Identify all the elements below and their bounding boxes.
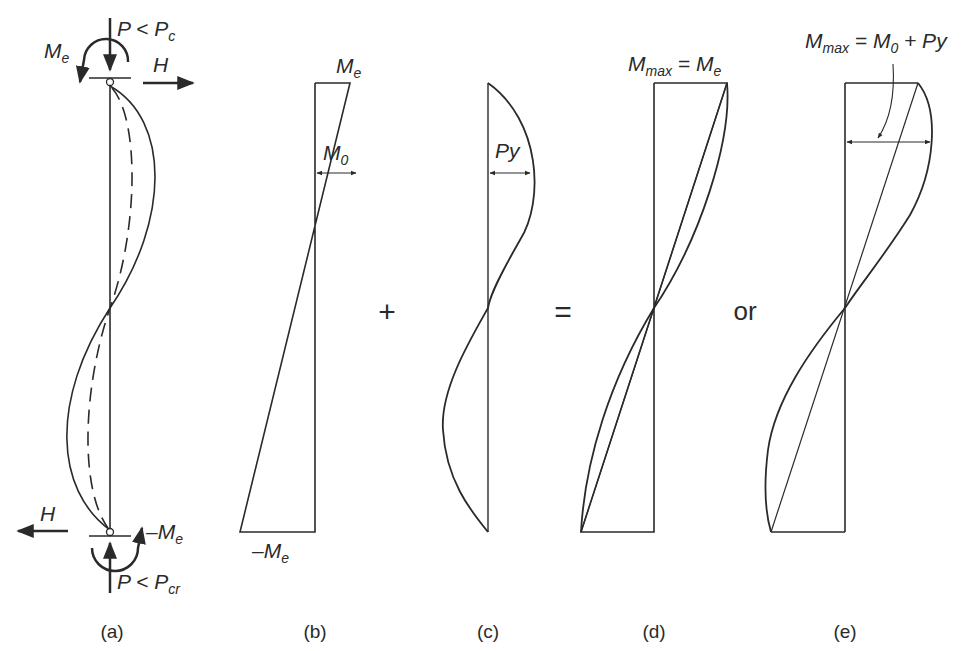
panel-c-secondary-moment: Py (c) <box>443 83 535 642</box>
panel-a-column: P < Pc Me H H –Me P < Pcr (a) <box>18 17 193 642</box>
bottom-moment-label: –Me <box>145 520 183 547</box>
plus-operator: + <box>378 295 396 328</box>
or-operator: or <box>733 296 756 326</box>
top-horizontal-label: H <box>153 53 169 76</box>
bottom-horizontal-label: H <box>40 502 56 525</box>
bottom-load-label: P < Pcr <box>117 570 181 597</box>
caption-a: (a) <box>100 621 123 642</box>
equals-operator: = <box>554 295 572 328</box>
top-load-label: P < Pc <box>117 17 175 44</box>
panel-b-primary-moment: Me M0 –Me (b) <box>240 54 362 642</box>
top-pin <box>107 79 114 86</box>
py-label: Py <box>495 139 521 162</box>
caption-d: (d) <box>642 621 665 642</box>
mmax-leader-arrow <box>878 64 893 138</box>
panel-d-linear <box>654 83 727 308</box>
me-top-label: Me <box>336 54 362 81</box>
top-moment-label: Me <box>44 39 70 66</box>
mmax-equals-m0-plus-py-label: Mmax = M0 + Py <box>805 29 948 56</box>
panel-e-combined-max-interior: Mmax = M0 + Py (e) <box>765 29 948 642</box>
top-moment-arc-icon <box>80 39 128 82</box>
deflected-shape <box>67 86 155 530</box>
panel-e-curve <box>765 83 932 532</box>
bottom-moment-arc-icon <box>92 528 142 571</box>
panel-d-linear-lower <box>581 308 654 532</box>
m0-label: M0 <box>323 141 349 168</box>
mmax-equals-me-label: Mmax = Me <box>628 52 721 79</box>
minus-me-bottom-label: –Me <box>251 539 289 566</box>
caption-e: (e) <box>833 621 856 642</box>
caption-b: (b) <box>303 621 326 642</box>
bottom-pin <box>107 529 114 536</box>
caption-c: (c) <box>477 621 499 642</box>
moment-diagram-figure: P < Pc Me H H –Me P < Pcr (a) Me M0 –Me … <box>0 0 975 651</box>
panel-d-combined-max-at-end: Mmax = Me (d) <box>581 52 728 642</box>
